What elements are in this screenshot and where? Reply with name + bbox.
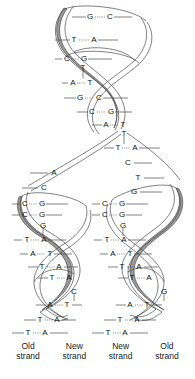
base-t: T	[118, 315, 123, 324]
base-t: T	[120, 262, 125, 271]
base-t: T	[81, 63, 86, 72]
base-t: T	[50, 273, 55, 282]
base-g: G	[131, 187, 137, 196]
strand-labels-row: Old strand New strand New strand Old str…	[0, 341, 195, 361]
replication-fork-separation	[28, 131, 180, 191]
base-t: T	[130, 273, 135, 282]
base-g: G	[119, 199, 125, 208]
base-a: A	[146, 273, 152, 282]
base-t: T	[122, 129, 127, 138]
base-g: G	[120, 221, 126, 230]
base-t: T	[136, 173, 141, 182]
base-a: A	[66, 273, 72, 282]
base-g: G	[87, 12, 93, 21]
base-a: A	[91, 35, 97, 44]
base-t: T	[116, 143, 121, 152]
fork-left-template-split	[28, 131, 118, 186]
base-t: T	[48, 249, 53, 258]
base-c: C	[89, 107, 95, 116]
base-t: T	[106, 328, 111, 337]
base-a: A	[70, 78, 76, 87]
base-g: G	[81, 54, 87, 63]
base-a: A	[136, 262, 142, 271]
dna-replication-figure: G C T A C G T A T G C C	[0, 0, 195, 379]
base-t: T	[25, 235, 30, 244]
label-line-2: strand	[145, 351, 189, 361]
base-c: C	[102, 210, 108, 219]
base-a: A	[54, 315, 60, 324]
base-t: T	[105, 235, 110, 244]
base-a: A	[110, 249, 116, 258]
base-c: C	[22, 210, 28, 219]
right-helix-arc-top	[112, 185, 176, 200]
base-c: C	[107, 12, 113, 21]
base-t: T	[40, 262, 45, 271]
label-line-1: New	[99, 341, 143, 351]
base-g: G	[39, 210, 45, 219]
base-t: T	[145, 300, 150, 309]
base-g: G	[39, 199, 45, 208]
base-t: T	[72, 35, 77, 44]
label-line-1: New	[52, 341, 96, 351]
base-a: A	[122, 328, 128, 337]
base-t: T	[38, 315, 43, 324]
label-line-1: Old	[6, 341, 50, 351]
right-old-strand-ribbon	[130, 188, 183, 310]
left-daughter-backbones	[18, 192, 91, 320]
label-line-1: Old	[145, 341, 189, 351]
label-line-2: strand	[52, 351, 96, 361]
base-a: A	[51, 168, 57, 177]
parent-new-strand-outline-b	[65, 6, 125, 129]
parent-helix-top-arc	[63, 6, 146, 21]
base-c: C	[41, 183, 47, 192]
base-a: A	[30, 249, 36, 258]
base-c: C	[102, 199, 108, 208]
base-a: A	[134, 315, 140, 324]
label-new-strand-right: New strand	[99, 341, 143, 361]
base-a: A	[121, 235, 127, 244]
label-line-2: strand	[6, 351, 50, 361]
parent-helix-mid-arc	[66, 51, 139, 63]
base-c: C	[96, 93, 102, 102]
label-new-strand-left: New strand	[52, 341, 96, 361]
base-a: A	[103, 120, 109, 129]
base-g: G	[40, 221, 46, 230]
right-new-strand-outline-a	[128, 188, 180, 312]
base-a: A	[41, 235, 47, 244]
base-c: C	[64, 54, 70, 63]
base-t: T	[128, 249, 133, 258]
base-a: A	[127, 300, 133, 309]
base-c: C	[22, 199, 28, 208]
base-t: T	[88, 78, 93, 87]
parent-old-strand-outline-c	[92, 22, 151, 134]
base-g: G	[119, 210, 125, 219]
base-a: A	[47, 300, 53, 309]
label-line-2: strand	[99, 351, 143, 361]
base-c: C	[71, 287, 77, 296]
base-g: G	[108, 107, 114, 116]
base-t: T	[26, 328, 31, 337]
base-a: A	[132, 143, 138, 152]
base-a: A	[42, 328, 48, 337]
base-g: G	[161, 287, 167, 296]
label-old-strand-left: Old strand	[6, 341, 50, 361]
dna-helix-illustration: G C T A C G T A T G C C	[0, 0, 195, 379]
parent-duplex-backbones	[55, 6, 151, 134]
label-old-strand-right: Old strand	[145, 341, 189, 361]
base-t: T	[121, 120, 126, 129]
base-c: C	[125, 158, 131, 167]
base-a: A	[56, 262, 62, 271]
base-g: G	[77, 93, 83, 102]
base-t: T	[65, 300, 70, 309]
